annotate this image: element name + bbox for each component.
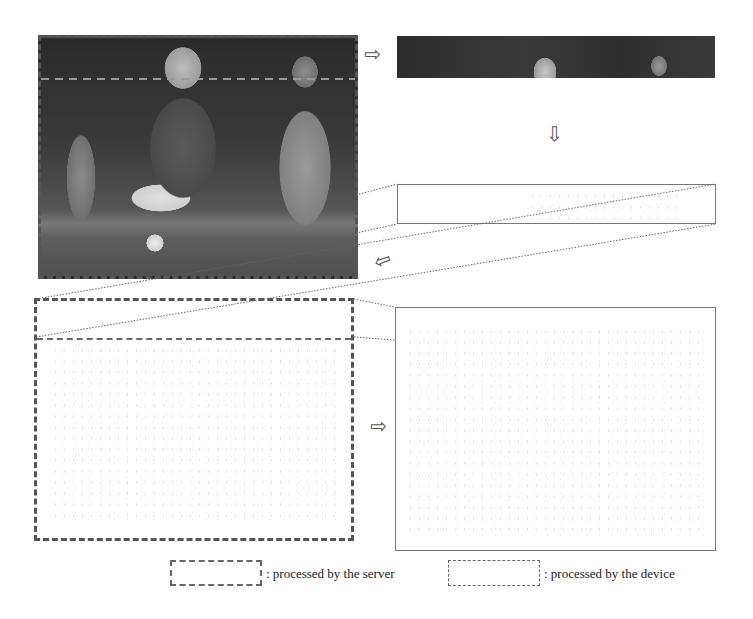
device-edge-map [34, 298, 354, 541]
legend-server-swatch [170, 560, 262, 586]
server-edge-map [395, 307, 716, 551]
roi-strip-image [397, 36, 715, 78]
arrow-left-icon: ⇦ [371, 248, 394, 273]
legend-server-label: : processed by the server [266, 566, 395, 582]
edge-strip-box [397, 184, 716, 224]
legend-device-swatch [448, 560, 540, 586]
device-map-roi-line [37, 338, 351, 340]
edge-strip-speckle [528, 191, 678, 219]
legend-device-label: : processed by the device [544, 566, 675, 582]
server-edge-speckle [406, 326, 706, 536]
device-edge-speckle [51, 345, 341, 525]
arrow-right-icon: ⇨ [370, 416, 387, 436]
roi-marker-line [41, 78, 355, 80]
arrow-right-icon: ⇨ [364, 44, 381, 64]
input-frame-photo [38, 35, 358, 279]
arrow-down-icon: ⇩ [546, 124, 563, 144]
